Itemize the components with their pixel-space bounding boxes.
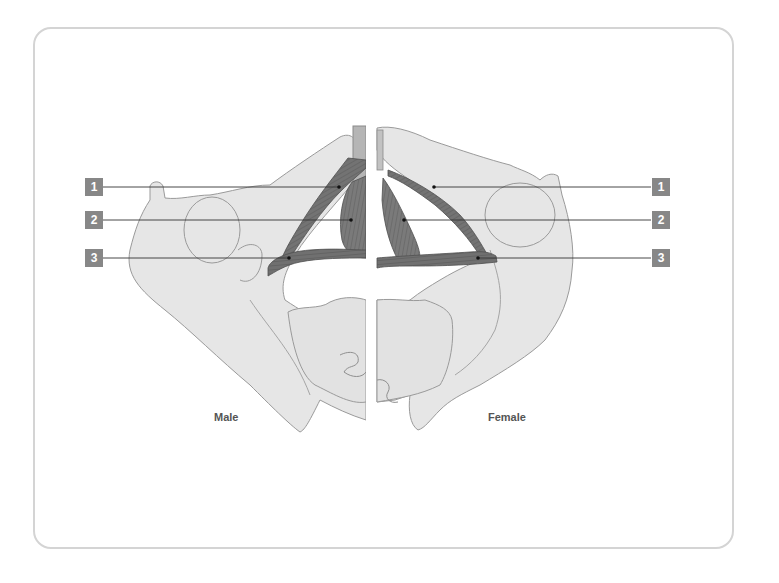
caption-female: Female (488, 411, 526, 423)
center-divider (366, 120, 375, 430)
label-box-right-2: 2 (652, 211, 670, 229)
label-box-left-2: 2 (85, 211, 103, 229)
label-box-right-3: 3 (652, 249, 670, 267)
target-dot-male-1 (337, 185, 341, 189)
label-box-left-3: 3 (85, 249, 103, 267)
target-dot-male-2 (349, 218, 353, 222)
female-urethral-stub (377, 130, 383, 170)
female-pelvis (377, 127, 573, 430)
caption-male: Male (214, 411, 238, 423)
target-dot-female-1 (432, 185, 436, 189)
male-pelvis (129, 126, 366, 432)
label-box-right-1: 1 (652, 178, 670, 196)
pelvis-illustration (0, 0, 779, 583)
target-dot-female-2 (402, 218, 406, 222)
target-dot-female-3 (476, 256, 480, 260)
label-box-left-1: 1 (85, 178, 103, 196)
target-dot-male-3 (287, 256, 291, 260)
